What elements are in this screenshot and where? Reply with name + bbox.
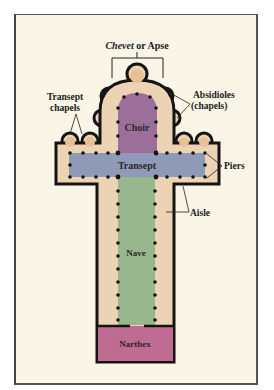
nave-label: Nave: [126, 248, 146, 258]
absidioles-label-line1: Absidioles: [193, 90, 235, 100]
narthex-label: Narthex: [119, 339, 151, 349]
aisle-label: Aisle: [190, 208, 210, 218]
transept-chapels-label-line1: Transept: [47, 92, 84, 102]
chevet-title: Chevet or Apse: [105, 40, 169, 51]
absidioles-label-line2: (chapels): [191, 101, 227, 112]
transept-chapels-pointer: [70, 114, 82, 134]
choir-label: Choir: [125, 122, 151, 133]
cathedral-floor-plan: Choir Transept Nave Narthex Chevet or Ap…: [0, 0, 274, 390]
piers-label: Piers: [224, 161, 245, 171]
transept-label: Transept: [118, 160, 157, 171]
transept-chapels-label-line2: chapels: [50, 103, 80, 113]
